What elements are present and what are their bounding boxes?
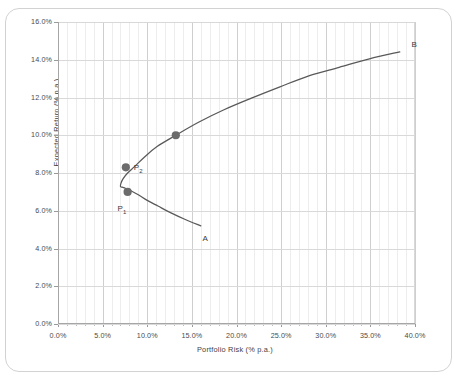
plot-border-left xyxy=(58,22,59,324)
chart-screenshot: Expected Return (% p.a.) Portfolio Risk … xyxy=(0,0,462,385)
plot-border-top xyxy=(58,22,415,23)
gridline-x-major xyxy=(415,22,416,324)
plot-area xyxy=(58,22,415,324)
endpoint-a: A xyxy=(203,234,208,243)
x-tick-label: 20.0% xyxy=(212,332,262,340)
x-tick-mark-major xyxy=(415,324,416,327)
gridline-y-major xyxy=(58,98,415,99)
x-tick-label: 15.0% xyxy=(167,332,217,340)
y-tick-label: 16.0% xyxy=(8,18,52,26)
y-tick-label: 14.0% xyxy=(8,56,52,64)
x-axis-title: Portfolio Risk (% p.a.) xyxy=(150,345,320,354)
gridline-y-major xyxy=(58,60,415,61)
x-tick-label: 35.0% xyxy=(345,332,395,340)
x-tick-label: 5.0% xyxy=(78,332,128,340)
y-tick-label: 2.0% xyxy=(8,282,52,290)
x-tick-label: 25.0% xyxy=(256,332,306,340)
point-label-p2: P2 xyxy=(134,163,143,176)
y-tick-label: 6.0% xyxy=(8,207,52,215)
gridline-y-major xyxy=(58,286,415,287)
plot-border-bottom xyxy=(58,323,415,324)
y-tick-label: 10.0% xyxy=(8,131,52,139)
x-tick-label: 0.0% xyxy=(33,332,83,340)
x-tick-label: 10.0% xyxy=(122,332,172,340)
gridline-y-major xyxy=(58,135,415,136)
gridline-y-major xyxy=(58,249,415,250)
y-tick-label: 0.0% xyxy=(8,320,52,328)
plot-border-right xyxy=(414,22,415,324)
y-tick-label: 12.0% xyxy=(8,94,52,102)
x-tick-label: 30.0% xyxy=(301,332,351,340)
y-tick-label: 4.0% xyxy=(8,245,52,253)
gridline-y-major xyxy=(58,324,415,325)
point-label-p1: P1 xyxy=(118,204,127,217)
x-tick-label: 40.0% xyxy=(390,332,440,340)
gridline-y-major xyxy=(58,173,415,174)
y-tick-label: 8.0% xyxy=(8,169,52,177)
endpoint-b: B xyxy=(411,40,416,49)
gridline-y-major xyxy=(58,211,415,212)
